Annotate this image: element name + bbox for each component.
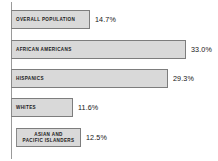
bar-african-americans: AFRICAN AMERICANS [11, 40, 186, 59]
bar-category-label: ASIAN AND PACIFIC ISLANDERS [17, 132, 80, 142]
bar-value-label: 11.6% [73, 98, 98, 117]
bar-asian-and-pacific-islanders: ASIAN AND PACIFIC ISLANDERS [16, 128, 81, 147]
bar-value-label: 12.5% [81, 128, 107, 147]
bar-value-label: 14.7% [90, 10, 116, 29]
bar-hispanics: HISPANICS [11, 69, 168, 88]
bar-category-label: HISPANICS [12, 76, 44, 81]
bar-value-label: 33.0% [186, 40, 212, 59]
bar-category-label: OVERALL POPULATION [12, 17, 75, 22]
bar-row-hispanics: HISPANICS 29.3% [11, 69, 194, 88]
bar-category-label: WHITES [12, 105, 36, 110]
bar-row-african-americans: AFRICAN AMERICANS 33.0% [11, 40, 212, 59]
bar-overall-population: OVERALL POPULATION [11, 10, 90, 29]
bar-row-overall-population: OVERALL POPULATION 14.7% [11, 10, 116, 29]
bar-whites: WHITES [11, 98, 73, 117]
bar-chart: OVERALL POPULATION 14.7% AFRICAN AMERICA… [0, 0, 218, 161]
bar-row-whites: WHITES 11.6% [11, 98, 98, 117]
bar-category-label: AFRICAN AMERICANS [12, 47, 72, 52]
bar-value-label: 29.3% [168, 69, 194, 88]
bar-row-asian-and-pacific-islanders: ASIAN AND PACIFIC ISLANDERS 12.5% [16, 128, 107, 147]
bar-rows: OVERALL POPULATION 14.7% AFRICAN AMERICA… [0, 0, 218, 161]
